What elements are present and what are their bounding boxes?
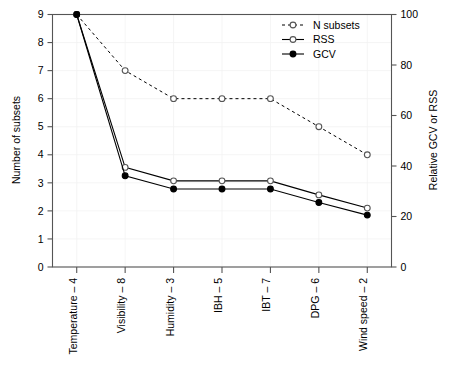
y2-axis-tick-label: 20 bbox=[401, 210, 413, 222]
y-axis-tick-label: 4 bbox=[38, 148, 44, 160]
data-point bbox=[316, 124, 322, 130]
data-point bbox=[268, 178, 274, 184]
x-axis-tick-label: Visibility – 8 bbox=[115, 278, 127, 333]
data-point bbox=[364, 212, 370, 218]
y-axis-tick-label: 5 bbox=[38, 120, 44, 132]
y2-axis-tick-label: 60 bbox=[401, 109, 413, 121]
data-point bbox=[364, 152, 370, 158]
legend-marker bbox=[290, 51, 296, 57]
y2-axis-title: Relative GCV or RSS bbox=[427, 90, 439, 190]
y-axis-tick-label: 1 bbox=[38, 233, 44, 245]
legend-marker bbox=[290, 22, 296, 28]
data-point bbox=[219, 96, 225, 102]
legend-label: N subsets bbox=[313, 19, 360, 31]
x-axis-tick-label: Humidity – 3 bbox=[164, 278, 176, 337]
data-point bbox=[122, 68, 128, 74]
data-point bbox=[219, 186, 225, 192]
y-axis-tick-label: 8 bbox=[38, 36, 44, 48]
data-point bbox=[268, 186, 274, 192]
data-point bbox=[219, 178, 225, 184]
data-point bbox=[316, 200, 322, 206]
y2-axis-tick-label: 100 bbox=[401, 8, 419, 20]
data-point bbox=[364, 205, 370, 211]
data-point bbox=[316, 192, 322, 198]
y2-axis-tick-label: 40 bbox=[401, 160, 413, 172]
x-axis-tick-label: DPG – 6 bbox=[309, 278, 321, 318]
data-point bbox=[122, 173, 128, 179]
y-axis-tick-label: 6 bbox=[38, 92, 44, 104]
data-point bbox=[171, 186, 177, 192]
y-axis-tick-label: 7 bbox=[38, 64, 44, 76]
data-point bbox=[171, 178, 177, 184]
x-axis-tick-label: Wind speed – 2 bbox=[357, 278, 369, 351]
legend-label: RSS bbox=[313, 33, 335, 45]
y2-axis-tick-label: 0 bbox=[401, 261, 407, 273]
y-axis-tick-label: 2 bbox=[38, 205, 44, 217]
y-axis-tick-label: 3 bbox=[38, 177, 44, 189]
y-axis-tick-label: 0 bbox=[38, 261, 44, 273]
x-axis-tick-label: IBT – 7 bbox=[260, 278, 272, 312]
chart-figure: 0123456789 020406080100 Temperature – 4V… bbox=[0, 0, 452, 376]
x-axis-tick-label: Temperature – 4 bbox=[67, 278, 79, 355]
y-axis-title: Number of subsets bbox=[10, 96, 22, 184]
y2-axis-tick-label: 80 bbox=[401, 59, 413, 71]
legend-marker bbox=[290, 37, 296, 43]
data-point bbox=[74, 12, 80, 18]
regression-subsets-chart: 0123456789 020406080100 Temperature – 4V… bbox=[0, 0, 452, 376]
data-point bbox=[268, 96, 274, 102]
legend-label: GCV bbox=[313, 48, 336, 60]
data-point bbox=[171, 96, 177, 102]
x-axis-tick-label: IBH – 5 bbox=[212, 278, 224, 313]
y-axis-tick-label: 9 bbox=[38, 8, 44, 20]
